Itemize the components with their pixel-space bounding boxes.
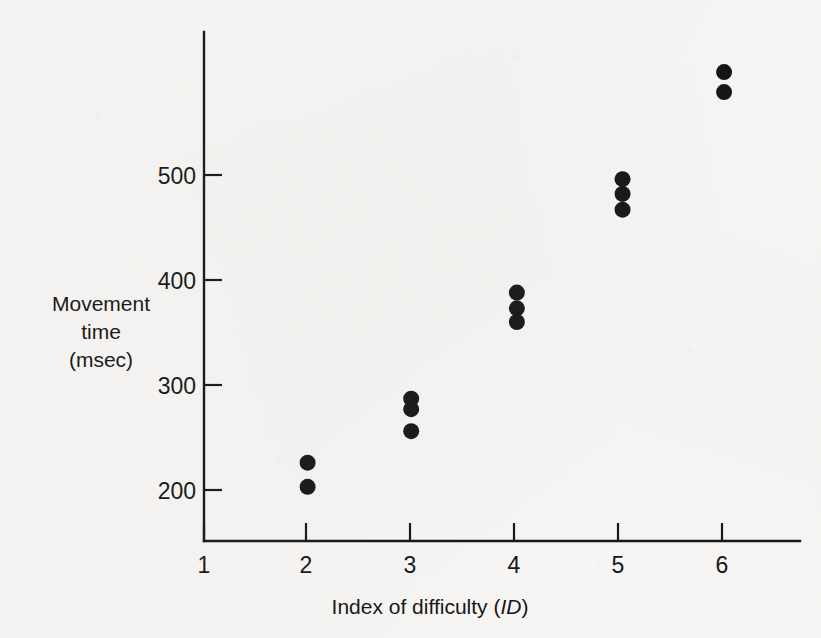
x-tick-label-1: 1 [198, 552, 211, 578]
data-point [509, 300, 525, 316]
data-point [509, 314, 525, 330]
scatter-plot-figure: 500 400 300 200 1 2 3 4 5 6 Movement tim… [0, 0, 821, 638]
y-tick-label-500: 500 [158, 163, 196, 189]
data-points-layer [300, 64, 732, 495]
y-tick-label-200: 200 [158, 478, 196, 504]
x-tick-label-5: 5 [612, 552, 625, 578]
data-point [300, 479, 316, 495]
data-point [615, 171, 631, 187]
y-axis-title-line-3: (msec) [69, 348, 133, 371]
data-point [615, 202, 631, 218]
x-tick-label-4: 4 [508, 552, 521, 578]
y-axis-title-line-1: Movement [52, 292, 150, 315]
x-tick-label-3: 3 [404, 552, 417, 578]
data-point [509, 285, 525, 301]
y-axis-title-line-2: time [81, 320, 121, 343]
data-point [716, 84, 732, 100]
x-tick-label-6: 6 [716, 552, 729, 578]
x-axis-ticks [204, 523, 722, 541]
x-axis-title: Index of difficulty (ID) [332, 595, 529, 618]
data-point [615, 186, 631, 202]
y-tick-label-300: 300 [158, 373, 196, 399]
data-point [403, 401, 419, 417]
x-axis-title-text: Index of difficulty [332, 595, 489, 618]
x-axis-title-italic: ID [500, 595, 521, 618]
data-point [403, 423, 419, 439]
x-tick-label-2: 2 [300, 552, 313, 578]
y-tick-label-400: 400 [158, 268, 196, 294]
y-axis-ticks [204, 175, 222, 490]
data-point [716, 64, 732, 80]
plot-canvas: 500 400 300 200 1 2 3 4 5 6 Movement tim… [0, 0, 821, 638]
data-point [300, 455, 316, 471]
y-axis-title: Movement time (msec) [52, 292, 150, 371]
